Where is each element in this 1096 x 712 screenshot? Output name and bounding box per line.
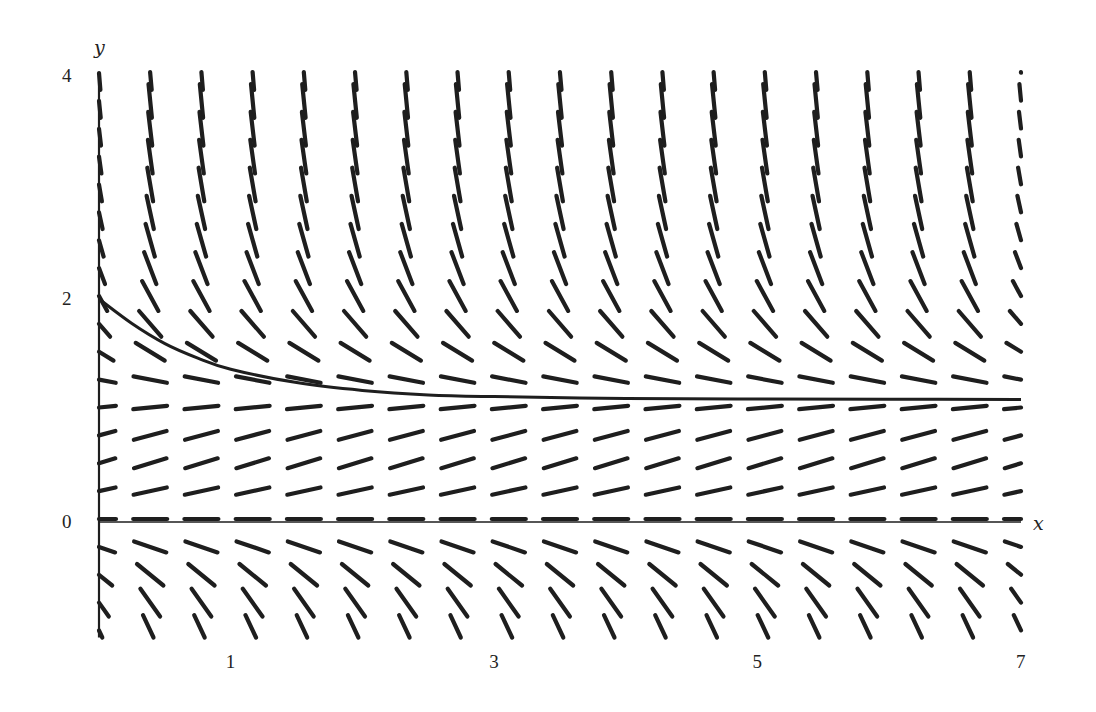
slope-dash — [389, 406, 423, 409]
slope-dash — [594, 406, 628, 409]
slope-dash — [803, 564, 829, 586]
slope-dash — [597, 343, 626, 361]
slope-dash — [651, 311, 673, 337]
slope-dash — [697, 458, 730, 468]
slope-dash — [498, 311, 520, 337]
slope-dash — [139, 311, 161, 337]
slope-dash — [752, 564, 778, 586]
slope-dash — [185, 406, 219, 409]
slope-dash — [493, 458, 526, 468]
slope-dash — [1016, 224, 1021, 240]
slope-dash — [800, 541, 832, 552]
slope-field-chart — [0, 0, 1096, 712]
slope-dash — [902, 406, 936, 409]
slope-dash — [99, 488, 116, 492]
slope-dash — [133, 406, 167, 409]
slope-dash — [646, 458, 679, 468]
slope-dash — [237, 541, 269, 552]
slope-dash — [399, 615, 410, 637]
slope-dash — [703, 311, 725, 337]
slope-dash — [492, 488, 525, 495]
slope-dash — [288, 541, 320, 552]
slope-dash — [750, 343, 779, 361]
x-tick-label: 7 — [1016, 652, 1026, 671]
slope-dash — [748, 406, 782, 409]
slope-dash — [339, 431, 372, 440]
slope-dash — [291, 564, 317, 586]
slope-dash — [697, 488, 730, 495]
slope-dash — [446, 311, 468, 337]
slope-dash — [755, 589, 775, 617]
slope-dash — [185, 541, 217, 552]
slope-dash — [954, 458, 987, 468]
slope-dash — [496, 564, 522, 586]
slope-dash — [800, 458, 833, 468]
y-tick-label: 2 — [62, 289, 72, 308]
slope-dash — [441, 488, 474, 495]
slope-dash — [194, 615, 205, 637]
slope-dash — [902, 376, 935, 382]
slope-dash — [143, 615, 154, 637]
slope-dash — [903, 541, 935, 552]
slope-dash — [1019, 140, 1021, 157]
slope-dash — [442, 541, 474, 552]
slope-dash — [287, 406, 321, 409]
slope-dash — [390, 458, 423, 468]
slope-dash — [1005, 541, 1021, 547]
x-tick-label: 1 — [226, 652, 236, 671]
slope-dash — [134, 458, 167, 468]
slope-dash — [341, 343, 370, 361]
slope-dash — [953, 488, 986, 495]
slope-dash — [188, 564, 214, 586]
slope-dash — [390, 541, 422, 552]
slope-dash — [339, 541, 371, 552]
slope-dash — [754, 311, 776, 337]
slope-dash — [348, 615, 359, 637]
slope-dash — [646, 376, 679, 382]
slope-dash — [238, 343, 267, 361]
slope-dash — [297, 615, 308, 637]
slope-dash — [699, 343, 728, 361]
slope-dash — [338, 376, 371, 382]
slope-dash — [960, 589, 980, 617]
slope-dash — [492, 431, 525, 440]
slope-dash — [450, 615, 460, 637]
slope-dash — [954, 541, 986, 552]
slope-dash — [850, 406, 884, 409]
slope-dash — [492, 376, 525, 382]
slope-dash — [595, 488, 628, 495]
slope-dash — [749, 458, 782, 468]
slope-dash — [390, 431, 423, 440]
slope-dash — [707, 615, 718, 637]
slope-dash — [246, 615, 257, 637]
slope-dash — [288, 431, 321, 440]
slope-dash — [243, 589, 263, 617]
slope-dash — [99, 458, 115, 463]
slope-dash — [236, 488, 269, 495]
slope-dash — [339, 488, 372, 495]
slope-dash — [854, 564, 880, 586]
slope-dash — [289, 343, 318, 361]
slope-dash — [697, 406, 731, 409]
slope-dash — [909, 589, 929, 617]
slope-dash — [800, 431, 833, 440]
slope-dash — [546, 343, 575, 361]
slope-dash — [908, 311, 930, 337]
slope-dash — [957, 564, 983, 586]
slope-dash — [99, 380, 116, 383]
slope-dash — [749, 431, 782, 440]
slope-dash — [604, 615, 615, 637]
slope-dash — [1018, 168, 1021, 185]
slope-dash — [704, 589, 724, 617]
slope-dash — [543, 488, 576, 495]
slope-dash — [342, 564, 368, 586]
slope-dash — [1015, 252, 1021, 268]
slope-dash — [441, 376, 474, 382]
slope-dash — [799, 376, 832, 382]
slope-dash — [595, 431, 628, 440]
slope-dash — [905, 564, 931, 586]
slope-dash — [134, 431, 167, 440]
slope-dash — [134, 488, 167, 495]
slope-dash — [99, 406, 116, 408]
slope-dash — [345, 589, 365, 617]
